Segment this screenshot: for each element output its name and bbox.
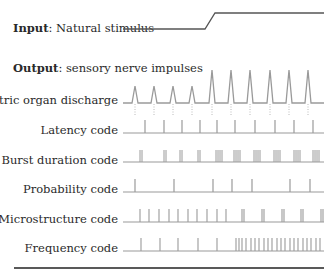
- traces-diagram: [0, 0, 334, 275]
- dotted-guides: [135, 104, 308, 116]
- latency-code-trace: [123, 120, 324, 133]
- stimulus-trace: [123, 13, 324, 29]
- eod-trace: [123, 70, 324, 103]
- burst-duration-code-trace: [123, 150, 324, 162]
- probability-code-trace: [123, 179, 324, 192]
- microstructure-code-trace: [123, 209, 324, 222]
- frequency-code-trace: [123, 238, 324, 251]
